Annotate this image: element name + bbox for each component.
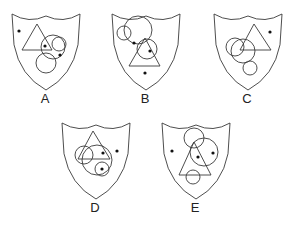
option-figure-c — [214, 14, 282, 90]
dot-marker — [196, 155, 199, 158]
shield-figures-diagram — [0, 0, 295, 229]
shield-outline — [162, 123, 230, 199]
circle-shape — [243, 61, 257, 75]
dot-marker — [58, 53, 61, 56]
dot-marker — [100, 167, 103, 170]
dot-marker — [211, 151, 214, 154]
option-label-d: D — [90, 201, 99, 214]
option-figure-d — [62, 123, 130, 199]
triangle-shape — [240, 24, 271, 50]
dot-marker — [115, 149, 118, 152]
dot-marker — [143, 71, 146, 74]
dot-marker — [43, 44, 46, 47]
option-label-a: A — [41, 92, 50, 105]
dot-marker — [101, 151, 104, 154]
dot-marker — [148, 49, 151, 52]
shield-outline — [214, 14, 282, 90]
option-label-b: B — [141, 92, 150, 105]
dot-marker — [170, 149, 173, 152]
dot-marker — [17, 29, 20, 32]
circle-shape — [186, 170, 200, 184]
triangle-shape — [22, 24, 52, 50]
option-figure-b — [112, 14, 180, 90]
option-label-e: E — [191, 201, 200, 214]
circle-shape — [36, 53, 56, 73]
shield-outline — [12, 14, 80, 90]
dot-marker — [132, 41, 135, 44]
option-figure-e — [162, 123, 230, 199]
shield-outline — [112, 14, 180, 90]
option-label-c: C — [242, 92, 251, 105]
circle-shape — [82, 145, 112, 175]
shield-outline — [62, 123, 130, 199]
circle-shape — [52, 37, 66, 51]
option-figure-a — [12, 14, 80, 90]
circle-shape — [124, 16, 152, 44]
dot-marker — [268, 30, 271, 33]
